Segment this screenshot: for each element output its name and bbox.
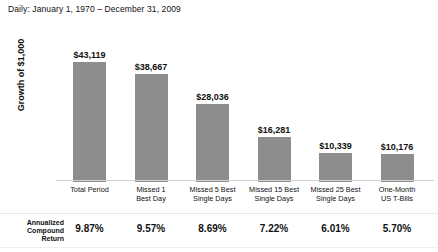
x-axis-tick-label: Missed 25 BestSingle Days [302,185,370,204]
summary-value: 9.87% [60,223,120,234]
bar-group: $10,176 [381,20,414,182]
bar-rect [319,153,352,182]
x-axis-tick-label: Missed 1Best Day [117,185,185,204]
x-axis-tick-label-line: Single Days [240,194,308,203]
x-axis-tick-label-line: Total Period [56,185,124,194]
x-axis-tick-label-line: Single Days [302,194,370,203]
chart-title: Daily: January 1, 1970 – December 31, 20… [8,4,181,14]
bar-rect [135,74,168,182]
bar-rect [73,62,106,182]
x-axis-tick-label-line: Single Days [179,194,247,203]
bar-group: $43,119 [73,20,106,182]
x-axis-tick-label-line: Missed 5 Best [179,185,247,194]
x-axis-tick-label-line: US T-Bills [363,194,431,203]
bar-value-label: $16,281 [258,125,291,135]
summary-row-header-line: Compound [8,227,64,235]
bar-value-label: $10,339 [319,141,352,151]
bar-value-label: $10,176 [381,142,414,152]
bar-group: $38,667 [135,20,168,182]
bar-group: $28,036 [196,20,229,182]
x-axis-tick-labels: Total PeriodMissed 1Best DayMissed 5 Bes… [0,185,438,211]
summary-value: 7.22% [244,223,304,234]
x-axis-tick-label: One-MonthUS T-Bills [363,185,431,204]
summary-value: 8.69% [183,223,243,234]
summary-value: 6.01% [306,223,366,234]
x-axis-tick-label: Missed 5 BestSingle Days [179,185,247,204]
summary-row-header: AnnualizedCompoundReturn [8,219,64,244]
plot-area: Growth of $1,000 $43,119$38,667$28,036$1… [0,18,438,182]
summary-row-header-line: Annualized [8,219,64,227]
bar-group: $10,339 [319,20,352,182]
summary-value: 5.70% [367,223,427,234]
bar-rect [381,154,414,182]
bar-series: $43,119$38,667$28,036$16,281$10,339$10,1… [0,18,438,182]
x-axis-tick-label-line: One-Month [363,185,431,194]
bar-value-label: $43,119 [73,50,105,60]
bar-value-label: $38,667 [135,62,168,72]
bar-rect [196,104,229,182]
summary-table: AnnualizedCompoundReturn 9.87%9.57%8.69%… [0,213,438,248]
x-axis-tick-label-line: Missed 15 Best [240,185,308,194]
summary-row-header-line: Return [8,235,64,243]
x-axis-line [56,180,434,181]
bar-group: $16,281 [258,20,291,182]
x-axis-tick-label: Missed 15 BestSingle Days [240,185,308,204]
bar-value-label: $28,036 [196,92,229,102]
x-axis-tick-label-line: Best Day [117,194,185,203]
x-axis-tick-label: Total Period [56,185,124,194]
bar-rect [258,137,291,182]
x-axis-tick-label-line: Missed 1 [117,185,185,194]
summary-value: 9.57% [121,223,181,234]
x-axis-tick-label-line: Missed 25 Best [302,185,370,194]
